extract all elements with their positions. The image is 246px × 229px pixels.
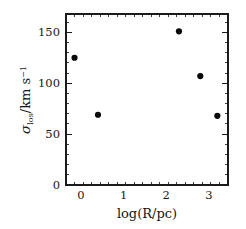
x-tick-label: 3 [205,188,212,202]
plot-frame-rect [66,14,228,185]
plot-canvas: 0123 050100150 log(R/pc) σlos/km s−1 [0,0,246,229]
data-point [95,112,101,118]
y-tick-label: 100 [38,76,60,90]
y-axis-title: σlos/km s−1 [17,66,35,134]
data-point [214,113,220,119]
data-point [197,73,203,79]
y-axis-tick-labels: 050100150 [38,25,60,192]
y-axis-unit: /km s [18,78,33,113]
y-tick-label: 0 [53,178,60,192]
x-axis-tick-labels: 0123 [77,188,212,202]
scatter-plot-figure: 0123 050100150 log(R/pc) σlos/km s−1 [0,0,246,229]
x-tick-label: 0 [77,188,84,202]
x-axis-title: log(R/pc) [117,206,177,221]
x-tick-label: 1 [120,188,127,202]
svg-text:σlos/km s−1: σlos/km s−1 [17,66,35,134]
data-point [176,28,182,34]
y-axis-subscript: los [26,113,35,124]
y-axis-exponent: −1 [19,66,28,78]
data-point-markers [71,28,220,119]
y-tick-label: 150 [38,25,60,39]
plot-frame [66,14,228,185]
y-tick-label: 50 [45,127,60,141]
data-point [71,55,77,61]
x-axis-ticks [66,14,228,185]
y-axis-ticks [66,22,228,185]
x-tick-label: 2 [163,188,170,202]
